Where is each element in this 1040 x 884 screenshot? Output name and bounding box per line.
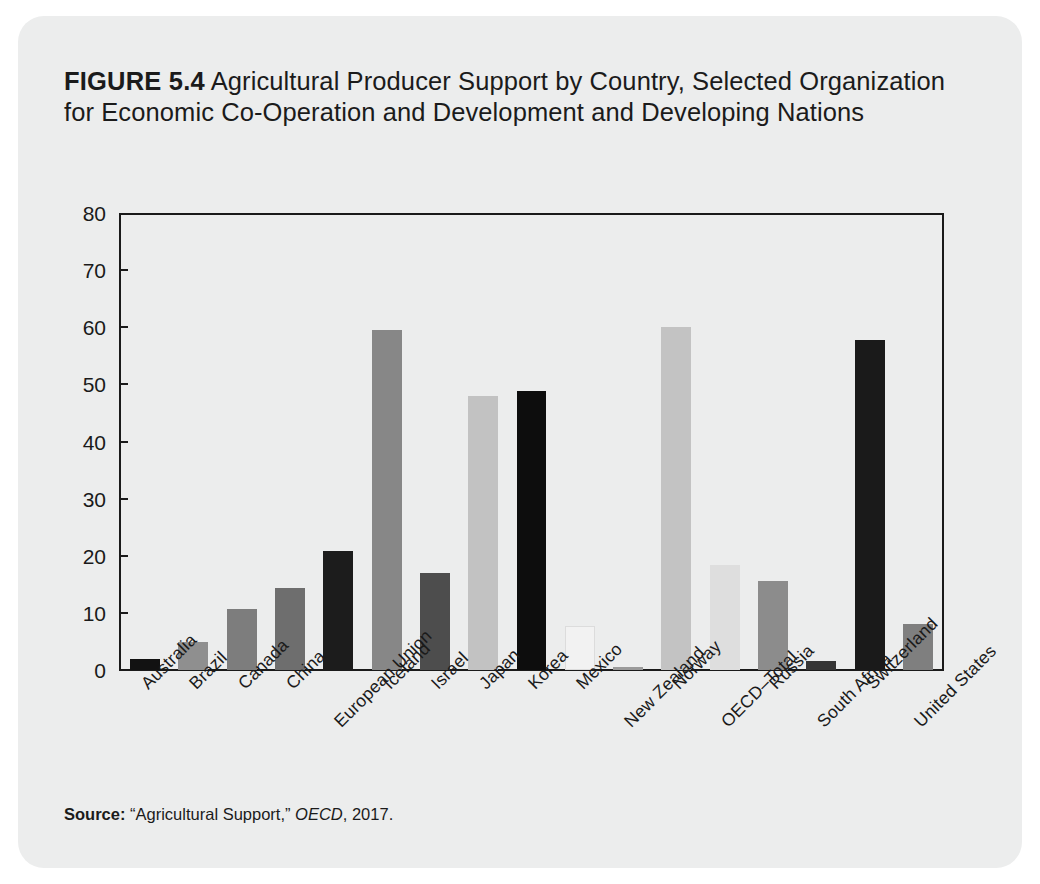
source-year: , 2017. — [343, 805, 393, 823]
y-tick-label-70: 70 — [83, 260, 106, 281]
y-tick-label-10: 10 — [83, 602, 106, 623]
y-tick-label-80: 80 — [83, 203, 106, 224]
y-tick-label-20: 20 — [83, 545, 106, 566]
bar-european-union — [323, 551, 353, 670]
y-tick-label-0: 0 — [94, 660, 106, 681]
bar-new-zealand — [613, 667, 643, 670]
bar-japan — [468, 396, 498, 670]
figure-number: FIGURE 5.4 — [64, 67, 205, 95]
figure-panel: FIGURE 5.4 Agricultural Producer Support… — [18, 16, 1022, 868]
bar-switzerland — [855, 340, 885, 670]
figure-title: FIGURE 5.4 Agricultural Producer Support… — [64, 66, 964, 128]
bar-norway — [661, 327, 691, 670]
y-tick-label-50: 50 — [83, 374, 106, 395]
source-publisher: OECD — [295, 805, 343, 823]
source-line: Source: “Agricultural Support,” OECD, 20… — [64, 805, 393, 824]
source-text: “Agricultural Support,” — [125, 805, 295, 823]
y-tick-label-40: 40 — [83, 431, 106, 452]
bar-chart: 01020304050607080 AustraliaBrazilCanadaC… — [64, 194, 974, 694]
source-label: Source: — [64, 805, 125, 823]
y-tick-label-60: 60 — [83, 317, 106, 338]
y-tick-label-30: 30 — [83, 488, 106, 509]
bars-layer — [121, 213, 942, 670]
bar-iceland — [372, 330, 402, 670]
x-axis-labels: AustraliaBrazilCanadaChinaEuropean Union… — [119, 671, 944, 791]
bar-korea — [517, 391, 547, 670]
